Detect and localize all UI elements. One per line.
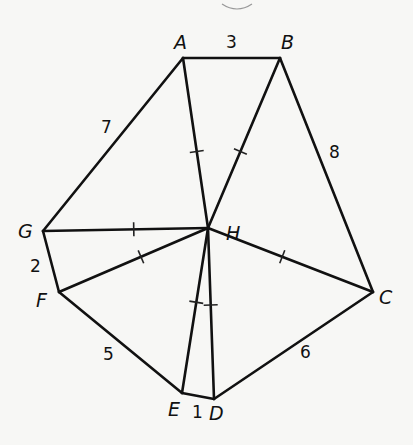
edge-FG (43, 231, 59, 292)
segment-HB (208, 58, 280, 228)
edge-length-FG: 2 (30, 256, 41, 276)
vertex-label-D: D (209, 402, 224, 424)
vertex-label-H: H (226, 222, 240, 244)
segment-HD (208, 228, 214, 399)
edge-BC (280, 58, 373, 292)
segment-HE (182, 228, 208, 393)
geometry-diagram: 3861527ABCDEFGH (0, 0, 413, 445)
edge-length-GA: 7 (101, 117, 112, 137)
edge-length-EF: 5 (103, 344, 114, 364)
vertex-label-F: F (36, 289, 48, 311)
diagram-canvas: 3861527ABCDEFGH (0, 0, 413, 445)
congruence-tick-HE (189, 301, 203, 303)
congruence-tick-HA (190, 150, 204, 152)
vertex-label-E: E (168, 398, 180, 420)
edge-length-DE: 1 (192, 402, 203, 422)
edges-layer (43, 58, 373, 399)
partial-circle-decoration (222, 4, 252, 9)
edge-length-AB: 3 (226, 32, 237, 52)
segment-HG (43, 228, 208, 231)
vertex-label-G: G (18, 220, 33, 242)
edge-CD (214, 292, 373, 399)
edge-DE (182, 393, 214, 399)
vertex-label-B: B (281, 31, 294, 53)
edge-EF (59, 292, 182, 393)
vertex-label-A: A (172, 31, 187, 53)
edge-length-BC: 8 (329, 142, 340, 162)
segment-HF (59, 228, 208, 292)
segment-HA (183, 58, 208, 228)
edge-length-CD: 6 (300, 342, 311, 362)
vertex-label-C: C (379, 286, 393, 308)
edge-GA (43, 58, 183, 231)
